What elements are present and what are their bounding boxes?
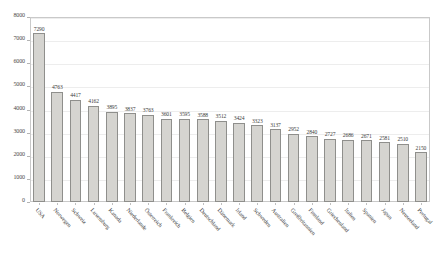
x-axis-tick-mark: [366, 203, 367, 205]
bar: [197, 119, 209, 202]
bar-value-label: 3512: [216, 113, 227, 119]
x-axis-category: Japan: [375, 203, 393, 274]
y-axis-tick-label: 6000: [13, 58, 25, 64]
bar-group: 3137: [266, 17, 284, 202]
x-axis-category: Australien: [266, 203, 284, 274]
x-axis-category: Deutschland: [194, 203, 212, 274]
bar-group: 2581: [375, 17, 393, 202]
x-axis-category: Griechenland: [321, 203, 339, 274]
bar-group: 3837: [121, 17, 139, 202]
bar-group: 2671: [357, 17, 375, 202]
x-axis-category: Norwegen: [48, 203, 66, 274]
x-axis-tick-mark: [294, 203, 295, 205]
bar-group: 4763: [48, 17, 66, 202]
bar-value-label: 2150: [416, 145, 427, 151]
x-axis-category: Italien: [339, 203, 357, 274]
x-axis-tick-label: USA: [35, 207, 47, 219]
bar-value-label: 3323: [252, 118, 263, 124]
bar-group: 2952: [285, 17, 303, 202]
bar-value-label: 3137: [270, 122, 281, 128]
x-axis-tick-mark: [257, 203, 258, 205]
y-axis-tick-label: 5000: [13, 81, 25, 87]
bar: [124, 113, 136, 202]
bar-value-label: 2581: [379, 135, 390, 141]
bar-value-label: 2840: [307, 129, 318, 135]
bar-group: 3512: [212, 17, 230, 202]
x-axis-category: Kanada: [103, 203, 121, 274]
bar-value-label: 2510: [397, 136, 408, 142]
x-axis-category: USA: [30, 203, 48, 274]
y-axis-tick-label: 7000: [13, 35, 25, 41]
bar-value-label: 2671: [361, 133, 372, 139]
bar-group: 3424: [230, 17, 248, 202]
bars-layer: 7290476344174162389538373763360135953588…: [30, 17, 430, 202]
x-axis: USANorwegenSchweizLuxemburgKanadaNiederl…: [30, 203, 430, 274]
x-axis-tick-mark: [166, 203, 167, 205]
bar: [361, 140, 373, 202]
x-axis-category: Portugal: [412, 203, 430, 274]
x-axis-tick-mark: [57, 203, 58, 205]
x-axis-category: Luxemburg: [85, 203, 103, 274]
bar-group: 2510: [394, 17, 412, 202]
bar: [270, 129, 282, 202]
bar: [342, 140, 354, 202]
x-axis-tick-mark: [185, 203, 186, 205]
bar-value-label: 2686: [343, 132, 354, 138]
x-axis-category: Belgien: [175, 203, 193, 274]
x-axis-tick-mark: [39, 203, 40, 205]
bar: [306, 136, 318, 202]
bar-value-label: 4417: [70, 92, 81, 98]
bar: [397, 144, 409, 202]
bar-group: 3763: [139, 17, 157, 202]
bar-group: 3588: [194, 17, 212, 202]
x-axis-category: Österreich: [139, 203, 157, 274]
bar-chart: 010002000300040005000600070008000 729047…: [0, 0, 437, 274]
bar: [106, 112, 118, 202]
x-axis-category: Großbritannien: [285, 203, 303, 274]
x-axis-tick-mark: [75, 203, 76, 205]
bar: [233, 123, 245, 202]
bar-value-label: 3595: [179, 111, 190, 117]
x-axis-tick-mark: [239, 203, 240, 205]
bar: [142, 115, 154, 202]
x-axis-category: Frankreich: [157, 203, 175, 274]
bar-group: 2686: [339, 17, 357, 202]
x-axis-tick-mark: [403, 203, 404, 205]
y-axis-tick-label: 2000: [13, 151, 25, 157]
bar-group: 3595: [175, 17, 193, 202]
x-axis-tick-mark: [148, 203, 149, 205]
x-axis-category: Neuseeland: [394, 203, 412, 274]
y-axis: 010002000300040005000600070008000: [0, 17, 30, 202]
x-axis-tick-label: Japan: [380, 207, 393, 220]
bar-value-label: 4162: [88, 98, 99, 104]
x-axis-tick-label: Italien: [344, 207, 358, 222]
bar-value-label: 3895: [107, 104, 118, 110]
bar: [251, 125, 263, 202]
bar-value-label: 3588: [197, 112, 208, 118]
x-axis-category: Dänemark: [212, 203, 230, 274]
bar: [179, 119, 191, 202]
bar-value-label: 3601: [161, 111, 172, 117]
x-axis-tick-mark: [94, 203, 95, 205]
bar-group: 2150: [412, 17, 430, 202]
bar-group: 3323: [248, 17, 266, 202]
x-axis-category: Finnland: [303, 203, 321, 274]
x-axis-category: Spanien: [357, 203, 375, 274]
y-axis-tick-label: 0: [22, 197, 25, 203]
y-axis-tick-label: 4000: [13, 105, 25, 111]
bar: [379, 142, 391, 202]
bar-value-label: 3763: [143, 107, 154, 113]
bar-group: 3601: [157, 17, 175, 202]
bar-value-label: 3424: [234, 115, 245, 121]
bar-value-label: 4763: [52, 84, 63, 90]
bar: [324, 139, 336, 202]
x-axis-category: Irland: [230, 203, 248, 274]
bar-value-label: 2727: [325, 131, 336, 137]
x-axis-category: Schweden: [248, 203, 266, 274]
bar: [415, 152, 427, 202]
bar-value-label: 7290: [34, 26, 45, 32]
x-axis-tick-label: Portugal: [416, 207, 433, 225]
x-axis-tick-mark: [221, 203, 222, 205]
bar-group: 3895: [103, 17, 121, 202]
bar-group: 4162: [85, 17, 103, 202]
